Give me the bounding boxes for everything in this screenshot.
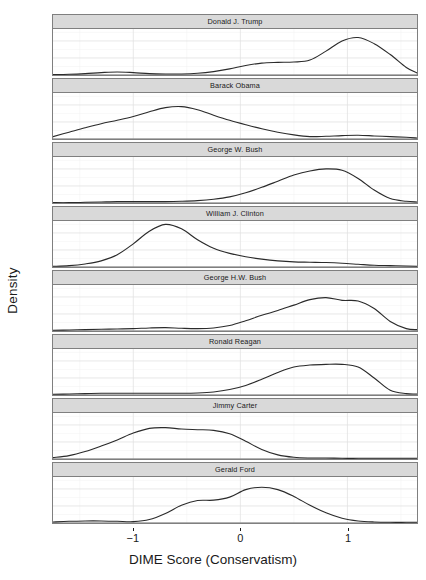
y-tick-mark [52,297,53,298]
y-tick-mark [52,507,53,508]
y-tick-mark [52,443,53,444]
x-axis: −101 [52,528,418,550]
facet-plot-area: 0.00.51.0 [52,156,418,204]
facet-plot-area: 0.00.51.0 [52,412,418,460]
facet-george-w-bush: George W. Bush0.00.51.0 [52,142,418,204]
facet-strip-label: Gerald Ford [52,462,418,476]
y-tick-mark [52,379,53,380]
facet-plot-area: 0.00.51.0 [52,348,418,396]
y-tick-mark [52,425,53,426]
facet-strip-label: Donald J. Trump [52,14,418,28]
facet-jimmy-carter: Jimmy Carter0.00.51.0 [52,398,418,460]
facet-gerald-ford: Gerald Ford0.00.51.0 [52,462,418,524]
x-axis-title: DIME Score (Conservatism) [0,552,426,567]
x-axis-title-label: DIME Score (Conservatism) [129,552,297,567]
density-curve [53,37,417,74]
facet-william-j-clinton: William J. Clinton0.00.51.0 [52,206,418,268]
facet-panel-stack: Donald J. Trump0.00.51.0Barack Obama0.00… [52,14,418,526]
x-tick-mark [240,528,241,531]
y-tick-mark [52,187,53,188]
x-tick-mark [133,528,134,531]
density-curve [53,487,417,522]
facet-plot-area: 0.00.51.0 [52,28,418,76]
y-tick-mark [52,233,53,234]
facet-plot-area: 0.00.51.0 [52,92,418,140]
facet-barack-obama: Barack Obama0.00.51.0 [52,78,418,140]
y-tick-mark [52,41,53,42]
x-tick-mark [348,528,349,531]
density-facet-chart: Density Donald J. Trump0.00.51.0Barack O… [0,0,426,580]
facet-strip-label: William J. Clinton [52,206,418,220]
facet-plot-area: 0.00.51.0 [52,476,418,524]
facet-plot-area: 0.00.51.0 [52,220,418,268]
y-axis-title-label: Density [5,267,20,313]
y-tick-mark [52,105,53,106]
facet-ronald-reagan: Ronald Reagan0.00.51.0 [52,334,418,396]
density-curve [53,364,417,394]
facet-strip-label: Barack Obama [52,78,418,92]
facet-strip-label: George H.W. Bush [52,270,418,284]
y-tick-mark [52,123,53,124]
facet-strip-label: Jimmy Carter [52,398,418,412]
facet-donald-j-trump: Donald J. Trump0.00.51.0 [52,14,418,76]
x-tick-label: −1 [126,532,139,544]
facet-george-h-w-bush: George H.W. Bush0.00.51.0 [52,270,418,332]
y-axis-title: Density [2,0,22,580]
density-curve [53,428,417,459]
y-tick-mark [52,251,53,252]
y-tick-mark [52,489,53,490]
facet-strip-label: Ronald Reagan [52,334,418,348]
facet-strip-label: George W. Bush [52,142,418,156]
x-tick-label: 0 [237,532,243,544]
x-tick-label: 1 [345,532,351,544]
y-tick-mark [52,169,53,170]
y-tick-mark [52,315,53,316]
density-curve [53,224,417,266]
facet-plot-area: 0.00.51.0 [52,284,418,332]
y-tick-mark [52,59,53,60]
y-tick-mark [52,361,53,362]
